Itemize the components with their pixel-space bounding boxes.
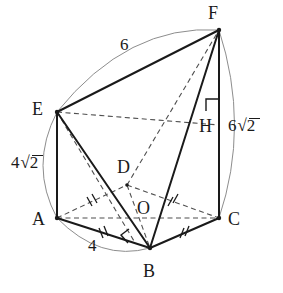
vertex-label-H: H xyxy=(199,117,212,135)
vertex-label-F: F xyxy=(208,4,218,22)
measure-FC-number: 6 xyxy=(228,116,237,135)
tick-AD xyxy=(92,194,97,203)
vertex-label-A: A xyxy=(32,210,45,228)
diagram-canvas xyxy=(0,0,283,293)
edge-EB xyxy=(57,112,150,248)
tick-DC xyxy=(168,197,173,206)
right-angle-H xyxy=(206,99,218,111)
geometry-diagram: E F A B C D O H 6 62 42 4 xyxy=(0,0,283,293)
vertex-label-B: B xyxy=(143,262,155,280)
radical-bar xyxy=(32,155,43,156)
radical-bar xyxy=(249,118,260,119)
vertex-dot-E xyxy=(55,110,59,114)
arc-EA xyxy=(43,112,57,218)
tick-DC xyxy=(173,194,178,203)
edge-BF xyxy=(150,30,219,248)
vertex-dot-D xyxy=(125,183,129,187)
edge-AD xyxy=(57,185,127,218)
measure-FC-expr: 62 xyxy=(228,117,255,134)
edge-EF xyxy=(57,30,219,112)
vertex-label-C: C xyxy=(228,210,240,228)
measure-EA-expr: 42 xyxy=(11,154,38,171)
edge-AB xyxy=(57,218,150,248)
edge-EH xyxy=(57,112,219,125)
vertex-dot-A xyxy=(55,216,59,220)
vertex-label-O: O xyxy=(137,199,150,217)
vertex-dot-F xyxy=(217,28,221,32)
measure-EA-number: 4 xyxy=(11,153,20,172)
vertex-dot-B xyxy=(148,246,152,250)
edge-BC xyxy=(150,218,219,248)
vertex-label-E: E xyxy=(32,100,43,118)
measure-label-FC: 62 xyxy=(228,117,255,134)
vertex-dot-C xyxy=(217,216,221,220)
measure-label-EA: 42 xyxy=(11,154,38,171)
measure-label-EF: 6 xyxy=(120,36,129,53)
vertex-label-D: D xyxy=(117,158,130,176)
measure-label-AB: 4 xyxy=(88,237,97,254)
